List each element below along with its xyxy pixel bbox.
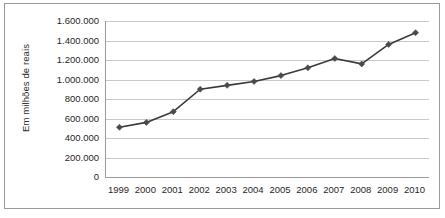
- data-point-marker: [332, 56, 338, 62]
- data-point-marker: [251, 78, 257, 84]
- data-point-marker: [413, 30, 419, 36]
- y-axis-tick-labels: 0200.000400.000600.000800.0001.000.0001.…: [36, 15, 102, 183]
- x-axis-tick-label: 2010: [395, 184, 435, 196]
- y-axis-tick-label: 1.400.000: [35, 36, 99, 46]
- data-point-marker: [143, 119, 149, 125]
- y-axis-tick-label: 1.200.000: [35, 55, 99, 65]
- y-axis-tick-label: 1.600.000: [35, 16, 99, 26]
- y-axis-tick-label: 200.000: [35, 153, 99, 163]
- y-axis-tick-label: 400.000: [35, 133, 99, 143]
- data-point-marker: [116, 124, 122, 130]
- plot-area: [105, 21, 429, 178]
- y-axis-tick-label: 600.000: [35, 114, 99, 124]
- data-point-marker: [278, 73, 284, 79]
- series-line: [119, 33, 415, 128]
- data-point-marker: [305, 65, 311, 71]
- line-series: [106, 21, 429, 177]
- y-axis-tick-label: 1.000.000: [35, 75, 99, 85]
- y-axis-tick-label: 800.000: [35, 94, 99, 104]
- x-axis-tick-labels: 1999200020012002200320042005200620072008…: [105, 184, 428, 200]
- chart-figure: Em milhões de reais 0200.000400.000600.0…: [0, 0, 445, 218]
- y-axis-title: Em milhões de reais: [19, 28, 33, 148]
- data-point-marker: [224, 82, 230, 88]
- y-axis-tick-label: 0: [35, 172, 99, 182]
